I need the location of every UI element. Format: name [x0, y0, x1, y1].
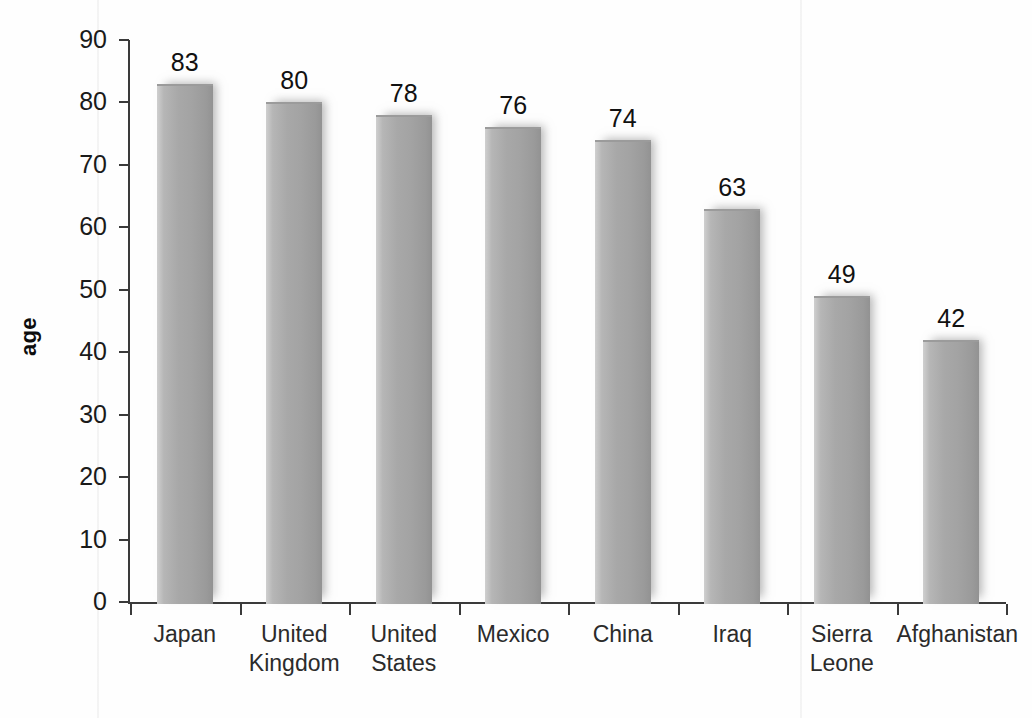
- bar: [376, 115, 432, 604]
- y-axis-tick-label: 80: [63, 89, 107, 114]
- y-axis-tick: [119, 476, 129, 478]
- y-axis-tick-label: 70: [63, 152, 107, 177]
- y-axis-tick: [119, 39, 129, 41]
- x-axis-category-label: United Kingdom: [240, 620, 350, 678]
- bar-value-label: 42: [911, 306, 991, 331]
- bar: [704, 209, 760, 604]
- y-axis-title: age: [16, 317, 42, 356]
- y-axis-tick-label: 60: [63, 214, 107, 239]
- bar-value-label: 83: [145, 50, 225, 75]
- y-axis-tick: [119, 414, 129, 416]
- y-axis-line: [128, 40, 130, 604]
- bar-chart: age 0102030405060708090 8380787674634942…: [0, 0, 1032, 718]
- x-axis-tick: [349, 604, 351, 615]
- bar: [266, 102, 322, 604]
- bar-value-label: 78: [364, 81, 444, 106]
- x-axis-category-label: Sierra Leone: [787, 620, 897, 678]
- bar: [485, 127, 541, 604]
- x-axis-tick: [1006, 604, 1008, 615]
- x-axis-category-label: United States: [349, 620, 459, 678]
- bar: [157, 84, 213, 604]
- bar: [814, 296, 870, 604]
- x-axis-category-label: China: [568, 620, 678, 649]
- x-axis-tick: [459, 604, 461, 615]
- x-axis-category-label: Mexico: [459, 620, 569, 649]
- x-axis-line: [128, 602, 1006, 604]
- bar-value-label: 80: [254, 68, 334, 93]
- x-axis-tick: [130, 604, 132, 615]
- y-axis-tick: [119, 226, 129, 228]
- y-axis-tick: [119, 101, 129, 103]
- y-axis-tick: [119, 539, 129, 541]
- y-axis-tick-label: 50: [63, 277, 107, 302]
- y-axis-tick: [119, 289, 129, 291]
- y-axis-tick-label: 40: [63, 339, 107, 364]
- x-axis-tick: [678, 604, 680, 615]
- x-axis-tick: [897, 604, 899, 615]
- x-axis-tick: [240, 604, 242, 615]
- x-axis-category-label: Iraq: [678, 620, 788, 649]
- bar-value-label: 74: [583, 106, 663, 131]
- scan-seam-right: [800, 0, 802, 718]
- bar-value-label: 63: [692, 175, 772, 200]
- y-axis-tick: [119, 164, 129, 166]
- x-axis-category-label: Afghanistan: [897, 620, 1007, 649]
- y-axis-tick-label: 0: [63, 589, 107, 614]
- y-axis-tick-label: 10: [63, 527, 107, 552]
- bar-value-label: 76: [473, 93, 553, 118]
- x-axis-tick: [568, 604, 570, 615]
- y-axis-tick-label: 30: [63, 402, 107, 427]
- y-axis-tick-label: 90: [63, 27, 107, 52]
- x-axis-category-label: Japan: [130, 620, 240, 649]
- bar: [595, 140, 651, 604]
- bar-value-label: 49: [802, 262, 882, 287]
- bar: [923, 340, 979, 604]
- y-axis-tick: [119, 601, 129, 603]
- y-axis-tick-label: 20: [63, 464, 107, 489]
- x-axis-tick: [787, 604, 789, 615]
- y-axis-tick: [119, 351, 129, 353]
